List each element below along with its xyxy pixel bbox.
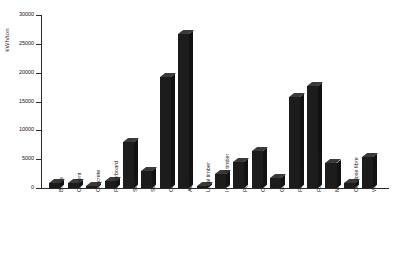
- x-axis-label: Local timber: [205, 162, 211, 192]
- x-axis-label: Imported timber: [224, 154, 230, 192]
- bar-front-face: [178, 34, 189, 188]
- x-axis-label: Foamed plastics: [316, 152, 322, 192]
- energy-per-ton-bar-chart: kWh/ton 050001000015000200002500030000 B…: [0, 0, 394, 256]
- x-axis-label: Cellulose fibre: [353, 157, 359, 192]
- y-axis-tick-label: 20000: [19, 69, 34, 75]
- x-axis-label: Copper: [168, 174, 174, 192]
- bar-side-face: [171, 74, 175, 188]
- x-axis-label: Aluminium: [187, 166, 193, 192]
- x-axis-label: Steel: [132, 180, 138, 193]
- x-axis-label: Stainless: [150, 170, 156, 192]
- x-axis-label: Glass: [279, 178, 285, 192]
- y-axis-tick-label: 10000: [19, 126, 34, 132]
- x-axis-label: Chipboard: [260, 167, 266, 192]
- y-axis-tick-label: 0: [31, 184, 34, 190]
- x-axis-label: Bricks: [58, 177, 64, 192]
- bar-front-face: [160, 77, 171, 188]
- x-axis-label: Plastics: [297, 173, 303, 192]
- x-axis-label: Cement: [76, 173, 82, 192]
- y-axis-title: kWh/ton: [1, 10, 13, 70]
- x-axis-label: Woodwool: [371, 166, 377, 192]
- bar: [178, 30, 189, 188]
- y-axis-tick-label: 15000: [19, 98, 34, 104]
- bar-side-face: [189, 31, 193, 188]
- x-axis-label: Plywood: [242, 171, 248, 192]
- y-axis-tick-label: 25000: [19, 40, 34, 46]
- y-axis-tick-label: 5000: [22, 155, 34, 161]
- y-axis-tick-label: 30000: [19, 11, 34, 17]
- x-axis-label: Concrete: [95, 170, 101, 192]
- bar: [160, 73, 171, 188]
- x-axis-label: Plasterboard: [113, 161, 119, 192]
- x-axis-label: Mineral wool: [334, 161, 340, 192]
- x-axis-labels: BricksCementConcretePlasterboardSteelSta…: [41, 190, 389, 256]
